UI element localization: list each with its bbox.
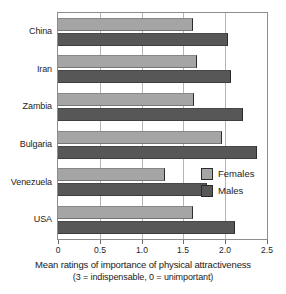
legend-item-males: Males <box>201 183 273 198</box>
x-tick-0 <box>58 240 59 244</box>
legend-swatch-males-icon <box>201 185 213 197</box>
plot-area <box>57 12 268 240</box>
bar-venezuela-females <box>58 168 165 181</box>
bar-group-zambia <box>58 88 267 126</box>
y-axis-label-iran: Iran <box>0 64 52 74</box>
x-tick-label-2.5: 2.5 <box>261 245 273 255</box>
x-tick-2.5 <box>267 240 268 244</box>
x-tick-label-0: 0 <box>56 245 61 255</box>
legend-label-females: Females <box>218 168 254 179</box>
bar-group-iran <box>58 51 267 89</box>
y-axis-label-venezuela: Venezuela <box>0 177 52 187</box>
x-tick-label-2.0: 2.0 <box>219 245 231 255</box>
x-tick-0.5 <box>100 240 101 244</box>
x-tick-label-1.5: 1.5 <box>177 245 189 255</box>
x-tick-label-0.5: 0.5 <box>94 245 106 255</box>
bar-usa-females <box>58 206 193 219</box>
bar-group-china <box>58 13 267 51</box>
x-tick-1.5 <box>183 240 184 244</box>
y-axis-category-labels: ChinaIranZambiaBulgariaVenezuelaUSA <box>0 12 52 240</box>
legend-label-males: Males <box>218 185 243 196</box>
bar-china-males <box>58 33 228 46</box>
bar-usa-males <box>58 221 235 234</box>
y-axis-label-zambia: Zambia <box>0 101 52 111</box>
x-tick-2.0 <box>225 240 226 244</box>
bar-group-usa <box>58 201 267 239</box>
y-axis-label-china: China <box>0 26 52 36</box>
y-axis-label-usa: USA <box>0 214 52 224</box>
legend-item-females: Females <box>201 166 273 181</box>
bar-iran-males <box>58 70 231 83</box>
y-axis-label-bulgaria: Bulgaria <box>0 139 52 149</box>
chart-figure: ChinaIranZambiaBulgariaVenezuelaUSA Fema… <box>0 0 286 294</box>
bar-china-females <box>58 18 193 31</box>
x-tick-label-1.0: 1.0 <box>136 245 148 255</box>
x-axis-caption: Mean ratings of importance of physical a… <box>0 258 286 284</box>
caption-line-1: Mean ratings of importance of physical a… <box>0 258 286 271</box>
bar-bulgaria-males <box>58 146 257 159</box>
x-tick-1.0 <box>142 240 143 244</box>
caption-line-2: (3 = indispensable, 0 = unimportant) <box>0 271 286 284</box>
bar-bulgaria-females <box>58 131 222 144</box>
bar-zambia-males <box>58 108 243 121</box>
bar-zambia-females <box>58 93 194 106</box>
bar-iran-females <box>58 55 197 68</box>
x-axis: 00.51.01.52.02.5 <box>57 240 268 258</box>
bar-group-bulgaria <box>58 126 267 164</box>
bar-venezuela-males <box>58 183 207 196</box>
legend-swatch-females-icon <box>201 168 213 180</box>
chart-legend: Females Males <box>201 166 273 200</box>
